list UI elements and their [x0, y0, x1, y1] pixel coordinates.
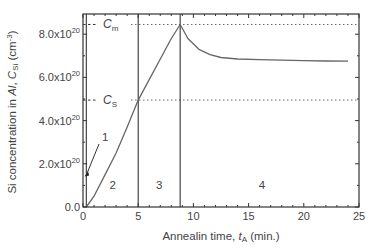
y-tick-label: 0.0: [65, 201, 80, 213]
chart: CmCS2341 05101520250.02.0x10204.0x10206.…: [0, 0, 379, 252]
axes: 05101520250.02.0x10204.0x10206.0x10208.0…: [39, 14, 366, 222]
annotation-arrow: [86, 144, 99, 176]
x-tick-label: 5: [135, 210, 141, 222]
plot-area: CmCS2341: [83, 14, 359, 207]
x-axis-title: Annealin time, tA (min.): [162, 230, 279, 244]
y-tick-label: 6.0x1020: [39, 69, 80, 83]
y-tick-label: 4.0x1020: [39, 113, 80, 127]
x-tick-label: 0: [80, 210, 86, 222]
reference-label-m: Cm: [103, 17, 119, 33]
reference-label-S: CS: [103, 93, 117, 109]
x-tick-label: 15: [242, 210, 254, 222]
x-tick-label: 25: [353, 210, 365, 222]
y-axis-title: Si concentration in Al, CSi (cm-3): [5, 30, 20, 193]
region-label-4: 4: [259, 179, 266, 191]
region-label-3: 3: [156, 179, 162, 191]
region-label-2: 2: [110, 179, 116, 191]
plot-frame: [83, 14, 359, 207]
y-tick-label: 8.0x1020: [39, 26, 80, 40]
annotation-label: 1: [102, 131, 108, 143]
x-tick-label: 20: [298, 210, 310, 222]
concentration-curve: [86, 25, 348, 208]
x-tick-label: 10: [187, 210, 199, 222]
y-tick-label: 2.0x1020: [39, 156, 80, 170]
